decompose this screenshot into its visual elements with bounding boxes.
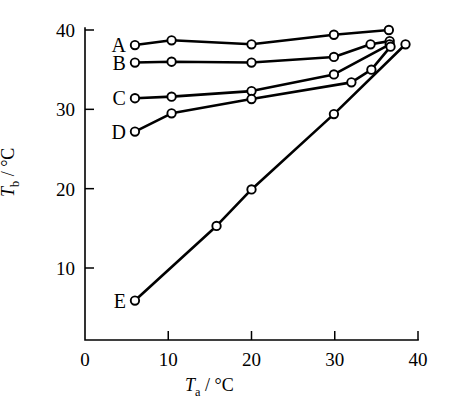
series-label-D: D: [111, 121, 125, 143]
y-axis-title-symbol: T: [0, 187, 18, 197]
data-point-E-3: [330, 110, 338, 118]
series-label-E: E: [114, 290, 126, 312]
series-line-E: [135, 44, 406, 300]
y-axis-title-subscript: b: [8, 181, 22, 187]
data-point-A-2: [247, 40, 255, 48]
data-point-B-4: [366, 40, 374, 48]
data-point-E-4: [401, 40, 409, 48]
y-tick-label-10: 10: [56, 258, 75, 279]
data-point-A-0: [131, 41, 139, 49]
x-tick-label-20: 20: [242, 349, 261, 370]
chart-figure: ABCDE 10203040010203040 Ta / °C Tb / °C: [0, 0, 452, 410]
series-label-C: C: [113, 87, 126, 109]
data-point-D-0: [131, 127, 139, 135]
data-point-A-4: [385, 26, 393, 34]
data-point-D-2: [247, 95, 255, 103]
data-point-D-4: [367, 65, 375, 73]
x-tick-label-30: 30: [325, 349, 344, 370]
data-point-E-2: [247, 185, 255, 193]
x-tick-label-0: 0: [80, 349, 90, 370]
data-series-group: [135, 30, 406, 301]
data-point-B-3: [330, 53, 338, 61]
y-axis-title: Tb / °C: [0, 148, 23, 197]
data-point-A-1: [167, 36, 175, 44]
series-line-C: [135, 44, 390, 98]
x-tick-label-10: 10: [159, 349, 178, 370]
data-point-D-3: [347, 78, 355, 86]
data-markers-group: [131, 26, 410, 305]
series-label-B: B: [113, 52, 126, 74]
x-axis-title: Ta / °C: [185, 375, 234, 400]
series-labels-group: ABCDE: [111, 34, 126, 311]
data-point-C-0: [131, 94, 139, 102]
y-axis-title-unit: / °C: [0, 148, 18, 181]
y-tick-label-30: 30: [56, 99, 75, 120]
plot-area: ABCDE 10203040010203040: [0, 0, 452, 410]
axis-lines: [85, 28, 418, 340]
x-axis-title-symbol: T: [185, 375, 195, 395]
x-axis-title-unit: / °C: [200, 375, 233, 395]
data-point-B-0: [131, 58, 139, 66]
axes-group: [85, 28, 418, 340]
data-point-C-1: [167, 92, 175, 100]
data-point-D-5: [386, 42, 394, 50]
data-point-C-3: [330, 70, 338, 78]
data-point-D-1: [167, 109, 175, 117]
data-point-B-2: [247, 58, 255, 66]
data-point-E-1: [212, 222, 220, 230]
data-point-E-0: [131, 296, 139, 304]
y-tick-label-40: 40: [56, 20, 75, 41]
y-tick-label-20: 20: [56, 179, 75, 200]
x-tick-label-40: 40: [409, 349, 428, 370]
data-point-A-3: [330, 31, 338, 39]
data-point-B-1: [167, 58, 175, 66]
